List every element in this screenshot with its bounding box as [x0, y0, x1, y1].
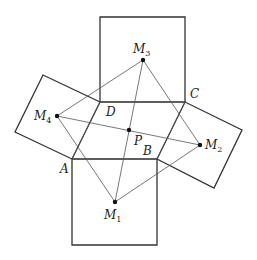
label-P: P: [133, 134, 143, 148]
label-A: A: [59, 162, 69, 176]
label-M4: M4: [33, 109, 51, 125]
point-p: [127, 128, 131, 132]
geometry-diagram: ABCDPM1M2M3M4: [0, 0, 257, 260]
diagram-canvas: ABCDPM1M2M3M4: [0, 0, 257, 260]
label-M1: M1: [103, 208, 121, 224]
label-B: B: [142, 144, 152, 158]
label-M2: M2: [204, 138, 222, 154]
label-M3: M3: [132, 42, 150, 58]
label-D: D: [105, 105, 116, 119]
point-m2: [198, 143, 202, 147]
center-points: [55, 58, 202, 204]
point-labels: ABCDPM1M2M3M4: [33, 42, 222, 224]
point-m3: [141, 58, 145, 62]
label-C: C: [190, 87, 199, 101]
point-m4: [55, 114, 59, 118]
point-m1: [113, 200, 117, 204]
